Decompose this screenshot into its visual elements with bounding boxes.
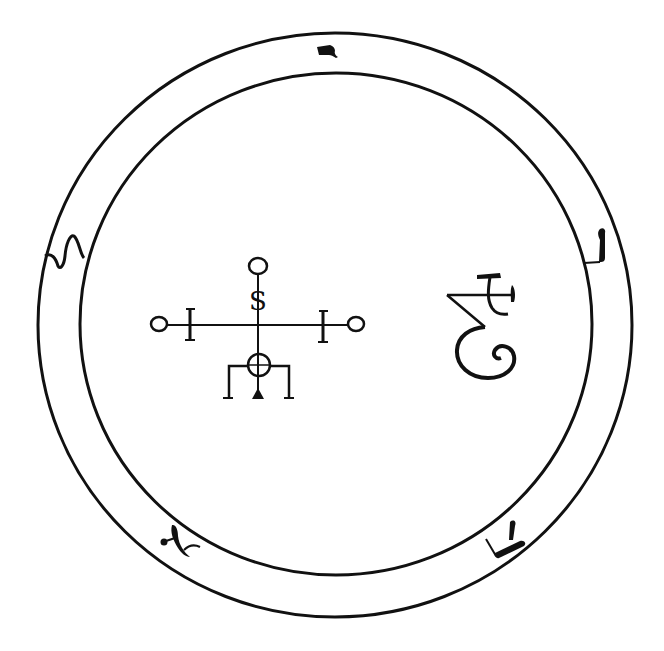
center-sigil: S xyxy=(151,258,364,399)
sigil-letter: S xyxy=(249,286,267,316)
right-sigil xyxy=(447,273,515,378)
letter-top-glyph xyxy=(317,45,338,58)
letter-bottom-left-glyph xyxy=(161,525,201,557)
letter-right-glyph xyxy=(584,228,605,263)
seal-drawing: S xyxy=(0,0,664,651)
